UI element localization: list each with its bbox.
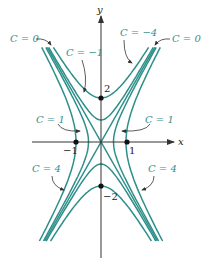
tick-x-1: 1 [129, 145, 135, 156]
curve-label: C = −4 [120, 27, 157, 38]
tick-y-neg2: −2 [103, 191, 118, 202]
curve-label: C = 1 [145, 114, 174, 125]
curve-label: C = 4 [32, 163, 61, 174]
point-x-1 [124, 139, 129, 144]
diagram-canvas: x y −1 1 2 −2 C = 0C = −1C = −4C = 0C = … [0, 0, 207, 271]
tick-x-neg1: −1 [63, 145, 78, 156]
tick-y-2: 2 [104, 83, 110, 94]
y-axis-label: y [96, 4, 103, 15]
curve-label: C = 0 [172, 33, 201, 44]
curve-label: C = 1 [36, 114, 65, 125]
curve-label: C = 4 [148, 163, 177, 174]
point-x-neg1 [73, 139, 78, 144]
curve-label: C = −1 [66, 47, 103, 58]
level-curves-diagram: x y −1 1 2 −2 C = 0C = −1C = −4C = 0C = … [0, 0, 207, 271]
point-y-neg2 [98, 183, 103, 188]
curve-labels: C = 0C = −1C = −4C = 0C = 1C = 1C = 4C =… [10, 27, 201, 174]
point-y-2 [98, 95, 103, 100]
curve-label: C = 0 [10, 33, 39, 44]
x-axis-label: x [178, 136, 184, 147]
